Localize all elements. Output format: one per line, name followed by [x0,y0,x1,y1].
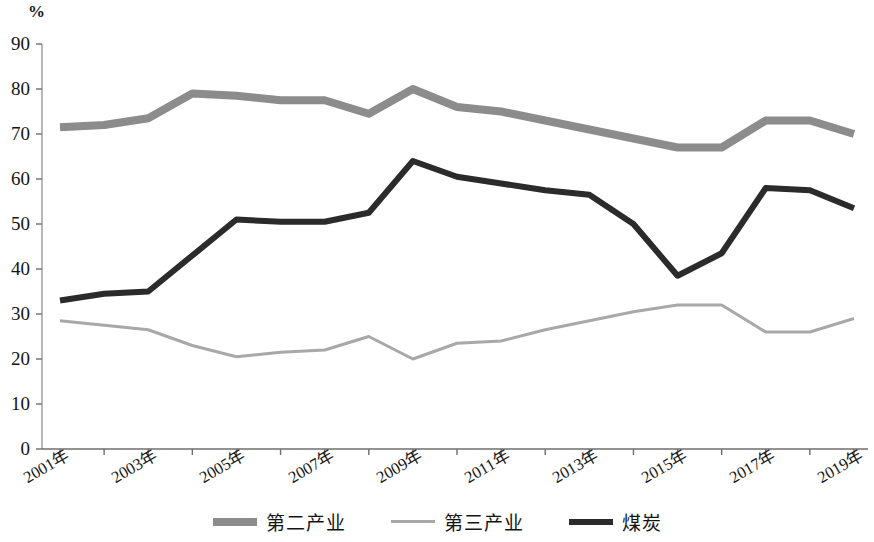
legend-label: 煤炭 [622,508,662,535]
y-axis-tick-label: 40 [0,259,30,278]
y-axis-tick-label: 90 [0,34,30,53]
y-axis-tick-label: 30 [0,304,30,323]
series-line-第二产业 [60,89,854,148]
y-axis-tick-label: 80 [0,79,30,98]
legend-label: 第二产业 [266,508,346,535]
chart-legend: 第二产业第三产业煤炭 [0,508,874,535]
series-line-煤炭 [60,161,854,301]
legend-item[interactable]: 煤炭 [568,508,662,535]
legend-item[interactable]: 第三产业 [390,508,524,535]
legend-swatch-icon [212,516,258,528]
legend-swatch-icon [568,517,614,527]
legend-label: 第三产业 [444,508,524,535]
y-axis-unit-label: % [28,2,45,22]
x-axis-ticks [60,449,854,455]
chart-container: % 0102030405060708090 2001年2003年2005年200… [0,0,874,542]
y-axis-tick-label: 0 [0,439,30,458]
y-axis-tick-label: 20 [0,349,30,368]
y-axis-tick-label: 10 [0,394,30,413]
data-series-group [60,89,854,359]
series-line-第三产业 [60,305,854,359]
y-axis-tick-label: 60 [0,169,30,188]
legend-swatch-icon [390,518,436,525]
y-axis-ticks [36,44,42,449]
y-axis-tick-label: 70 [0,124,30,143]
y-axis-tick-label: 50 [0,214,30,233]
legend-item[interactable]: 第二产业 [212,508,346,535]
